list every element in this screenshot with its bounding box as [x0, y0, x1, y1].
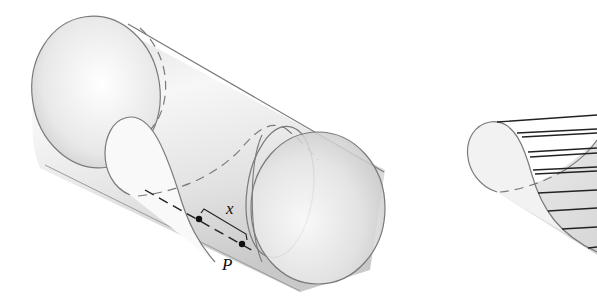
- label-P: P: [221, 255, 232, 274]
- diagram-canvas: x P: [0, 0, 597, 298]
- right-end-face: [251, 132, 385, 284]
- cylinder-figure: x P: [22, 8, 385, 292]
- ruled-surface-figure: [468, 115, 597, 255]
- label-x: x: [225, 199, 234, 218]
- segment-start-point: [196, 216, 202, 222]
- point-P: [239, 241, 245, 247]
